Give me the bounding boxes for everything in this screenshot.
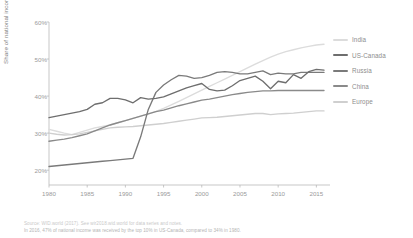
legend-label: India [352, 36, 366, 43]
legend-label: Russia [352, 67, 372, 74]
x-axis-ticks: 19801985199019952000200520102015 [0, 188, 413, 200]
legend-label: Europe [352, 98, 373, 105]
legend-swatch-icon [333, 85, 348, 87]
legend-item-us-canada[interactable]: US-Canada [333, 48, 409, 64]
chart-legend: IndiaUS-CanadaRussiaChinaEurope [333, 32, 409, 110]
interpretation-note: In 2016, 47% of national income was rece… [24, 227, 364, 234]
x-tick-label: 1985 [80, 190, 94, 197]
series-line-europe [49, 111, 324, 135]
y-tick-label: 50% [15, 56, 47, 63]
y-axis-ticks: 20%30%40%50%60% [13, 0, 47, 238]
y-axis-title: Share of national income (%) [2, 50, 9, 64]
series-line-india [49, 44, 324, 134]
legend-swatch-icon [333, 39, 348, 41]
y-tick-label: 40% [15, 93, 47, 100]
chart-container: Share of national income (%) 20%30%40%50… [0, 0, 413, 238]
x-tick-label: 1980 [42, 190, 56, 197]
x-tick-label: 2015 [309, 190, 323, 197]
legend-swatch-icon [333, 54, 348, 56]
legend-item-russia[interactable]: Russia [333, 63, 409, 79]
series-line-russia [49, 71, 324, 167]
x-tick-label: 2010 [271, 190, 285, 197]
legend-item-india[interactable]: India [333, 32, 409, 48]
x-tick-label: 1995 [157, 190, 171, 197]
legend-item-china[interactable]: China [333, 79, 409, 95]
legend-label: China [352, 83, 369, 90]
y-tick-label: 60% [15, 19, 47, 26]
x-tick-label: 2000 [195, 190, 209, 197]
chart-lines [49, 22, 324, 185]
legend-label: US-Canada [352, 52, 386, 59]
x-tick-label: 1990 [118, 190, 132, 197]
chart-notes: Source: WID.world (2017). See wir2018.wi… [24, 220, 364, 234]
legend-swatch-icon [333, 70, 348, 72]
y-tick-label: 30% [15, 130, 47, 137]
x-tick-label: 2005 [233, 190, 247, 197]
plot-area [49, 22, 324, 185]
legend-swatch-icon [333, 101, 348, 103]
source-note: Source: WID.world (2017). See wir2018.wi… [24, 220, 364, 227]
legend-item-europe[interactable]: Europe [333, 94, 409, 110]
y-tick-label: 20% [15, 167, 47, 174]
